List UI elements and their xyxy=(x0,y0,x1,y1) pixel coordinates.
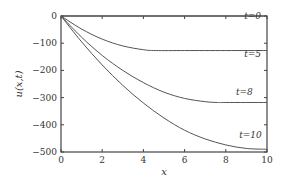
y-tick-label: −500 xyxy=(32,147,57,157)
curve-label: t=5 xyxy=(244,49,261,59)
y-tick-label: −300 xyxy=(32,93,57,103)
annotations: t=0t=5t=8t=10 xyxy=(236,11,262,141)
x-tick-label: 2 xyxy=(99,155,105,165)
curve-label: t=0 xyxy=(244,11,261,21)
series-line-t-10 xyxy=(61,16,267,149)
series-line-t-5 xyxy=(61,16,267,51)
x-tick-label: 4 xyxy=(141,155,147,165)
axes xyxy=(61,16,267,152)
x-tick-label: 0 xyxy=(58,155,64,165)
x-tick-label: 10 xyxy=(261,155,273,165)
y-axis-label: u(x,t) xyxy=(13,70,24,97)
curve-label: t=8 xyxy=(236,87,253,97)
y-tick-label: −100 xyxy=(32,38,57,48)
x-axis-label: x xyxy=(161,166,167,177)
y-tick-label: 0 xyxy=(51,11,57,21)
x-tick-label: 6 xyxy=(182,155,188,165)
series xyxy=(61,16,267,149)
plot-frame xyxy=(61,16,267,152)
y-tick-label: −200 xyxy=(32,65,57,75)
chart: 02468100−100−200−300−400−500 t=0t=5t=8t=… xyxy=(0,0,285,183)
x-tick-label: 8 xyxy=(223,155,229,165)
curve-label: t=10 xyxy=(239,130,262,140)
y-tick-label: −400 xyxy=(32,120,57,130)
